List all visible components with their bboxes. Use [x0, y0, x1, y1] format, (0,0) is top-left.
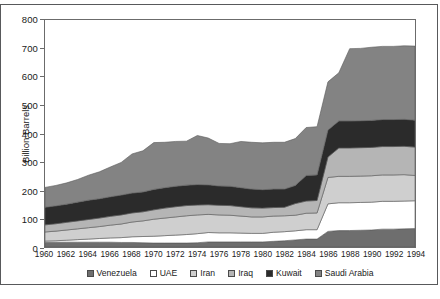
x-axis: 1960196219641966196819701972197419761978…: [44, 249, 416, 263]
legend-swatch-icon: [266, 270, 273, 277]
x-axis-tick-label: 1986: [319, 249, 337, 259]
x-axis-tick-label: 1976: [210, 249, 228, 259]
x-axis-tick-label: 1984: [297, 249, 315, 259]
figure-caption: [10, 290, 430, 299]
y-axis: 0100200300400500600700800: [0, 19, 44, 248]
y-axis-tick-label: 100: [22, 214, 38, 225]
legend-item-label: Iraq: [238, 268, 253, 278]
legend-item-iraq[interactable]: Iraq: [228, 268, 253, 278]
x-axis-tick-label: 1992: [385, 249, 403, 259]
y-axis-tick-label: 500: [22, 99, 38, 110]
x-axis-tick-label: 1968: [122, 249, 140, 259]
legend-swatch-icon: [315, 270, 322, 277]
x-axis-tick-label: 1988: [341, 249, 359, 259]
legend-item-kuwait[interactable]: Kuwait: [266, 268, 302, 278]
y-axis-tick-label: 300: [22, 157, 38, 168]
legend-swatch-icon: [150, 270, 157, 277]
x-axis-tick-label: 1972: [166, 249, 184, 259]
x-axis-tick-label: 1962: [57, 249, 75, 259]
x-axis-tick-label: 1960: [35, 249, 53, 259]
x-axis-tick-label: 1966: [100, 249, 118, 259]
y-axis-tick-label: 200: [22, 185, 38, 196]
plot-area: [44, 19, 416, 248]
y-axis-tick-label: 600: [22, 71, 38, 82]
y-axis-tick-label: 400: [22, 128, 38, 139]
legend-swatch-icon: [228, 270, 235, 277]
legend-item-saudi-arabia[interactable]: Saudi Arabia: [315, 268, 374, 278]
x-axis-tick-label: 1982: [275, 249, 293, 259]
x-axis-tick-label: 1978: [232, 249, 250, 259]
legend-item-label: Kuwait: [276, 268, 302, 278]
legend-item-label: Saudi Arabia: [325, 268, 374, 278]
legend-item-label: Venezuela: [97, 268, 137, 278]
x-axis-tick-label: 1980: [254, 249, 272, 259]
stacked-area-svg: [45, 20, 415, 247]
x-axis-tick-label: 1964: [79, 249, 97, 259]
legend-item-label: UAE: [160, 268, 178, 278]
chart-legend: VenezuelaUAEIranIraqKuwaitSaudi Arabia: [44, 266, 416, 280]
legend-item-iran[interactable]: Iran: [190, 268, 215, 278]
y-axis-tick-label: 700: [22, 42, 38, 53]
legend-swatch-icon: [190, 270, 197, 277]
x-axis-tick-label: 1974: [188, 249, 206, 259]
legend-item-venezuela[interactable]: Venezuela: [87, 268, 137, 278]
x-axis-tick-label: 1994: [407, 249, 425, 259]
legend-swatch-icon: [87, 270, 94, 277]
x-axis-tick-label: 1970: [144, 249, 162, 259]
chart-figure: Billion Barrels 010020030040050060070080…: [0, 0, 440, 299]
y-axis-tick-label: 800: [22, 14, 38, 25]
x-axis-tick-label: 1990: [363, 249, 381, 259]
legend-item-label: Iran: [200, 268, 215, 278]
legend-item-uae[interactable]: UAE: [150, 268, 178, 278]
